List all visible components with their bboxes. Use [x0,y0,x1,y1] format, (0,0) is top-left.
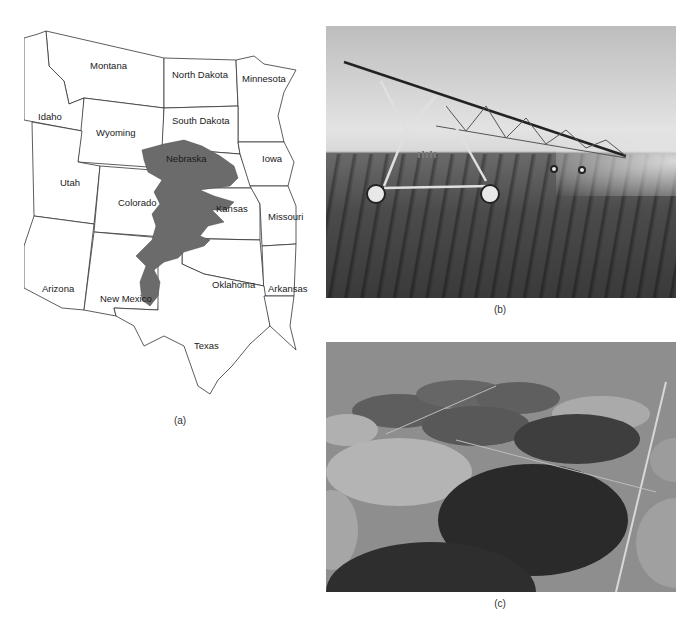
label-north-dakota: North Dakota [172,69,229,80]
label-idaho: Idaho [38,111,62,122]
state-arizona [24,216,94,310]
label-iowa: Iowa [262,153,283,164]
label-new-mexico: New Mexico [100,293,152,304]
ogallala-aquifer-map: Montana North Dakota Minnesota Idaho Wyo… [24,26,320,406]
label-colorado: Colorado [118,197,157,208]
label-wyoming: Wyoming [96,127,136,138]
map-svg: Montana North Dakota Minnesota Idaho Wyo… [24,26,320,406]
photo-center-pivot-sprinkler [326,26,676,298]
label-utah: Utah [60,177,80,188]
label-kansas: Kansas [216,203,248,214]
caption-a: (a) [150,415,210,426]
label-oklahoma: Oklahoma [212,279,256,290]
photo-aerial-pivot-fields [326,342,676,592]
label-nebraska: Nebraska [166,153,207,164]
label-minnesota: Minnesota [242,73,287,84]
state-north-dakota [164,58,238,108]
label-arkansas: Arkansas [268,283,308,294]
label-montana: Montana [90,60,128,71]
label-south-dakota: South Dakota [172,115,230,126]
road-lines [326,342,676,592]
label-arizona: Arizona [42,283,75,294]
state-minnesota [236,56,296,142]
caption-b: (b) [475,304,525,315]
caption-c: (c) [475,598,525,609]
label-missouri: Missouri [268,211,303,222]
label-texas: Texas [194,340,219,351]
sprinkler-illustration [326,26,676,298]
